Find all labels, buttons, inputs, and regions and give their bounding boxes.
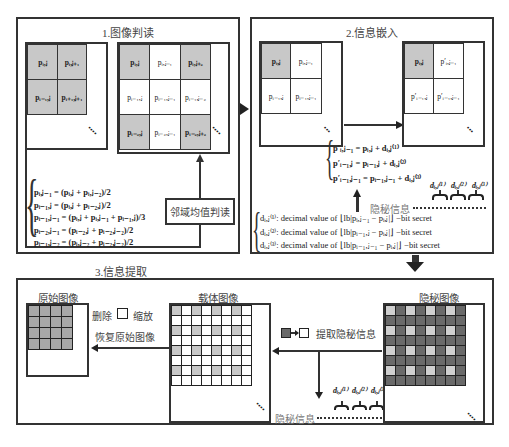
embed-equations: p′ᵢ,ⱼ₋₁ = pᵢ,ⱼ + dᵢ,ⱼ⁽¹⁾ p′ᵢ₋₁,ⱼ = pᵢ₋₁,… [333,141,421,186]
empty-square-icon [117,308,128,319]
empty-square-icon [299,328,309,338]
bracket-icon [450,194,466,200]
equation: pᵢ₋₁,ⱼ₋₁ = (pᵢ,ⱼ + pᵢ,ⱼ₋₁ + pᵢ₋₁,ⱼ)/3 [34,211,145,224]
equation: p′ᵢ₋₁,ⱼ₋₁ = pᵢ₋₁,ⱼ₋₁ + dᵢ,ⱼ⁽³⁾ [333,171,421,186]
secret-info-label: 隐秘信息 [275,411,315,426]
restore-original-label: 恢复原始图像 [95,329,155,344]
bracket-stem [457,190,459,194]
original-image-grid [26,303,89,377]
bracket-stem [376,401,378,405]
d-definitions: dᵢ,ⱼ⁽¹⁾: decimal value of ⌊lb|pᵢ,ⱼ₋₁ − p… [260,212,440,253]
zoom-label: 缩放 [133,308,153,323]
bracket-stem [359,401,361,405]
panel-3-title: 3.信息提取 [95,263,175,279]
pixel-cell: pᵢ₋₂,ⱼ₊₂ [180,114,211,150]
d-label: dᵢ,ⱼ⁽³⁾ [472,181,487,190]
pixel-cell: pᵢ₋₁,ⱼ₋₂ [180,79,211,115]
secret-info-dots [413,207,486,209]
equation: pᵢ,ⱼ₋₁ = (pᵢ,ⱼ + pᵢ,ⱼ₋₂)/2 [34,186,145,199]
equation: pᵢ₋₁,ⱼ = (pᵢ,ⱼ + pᵢ₋₂,ⱼ)/2 [34,199,145,212]
bracket-stem [341,401,343,405]
pixel-cell: pᵢ,ⱼ [261,43,291,79]
pixel-cell: pᵢ,ⱼ₋₁ [149,44,181,80]
panel-2-title: 2.信息嵌入 [250,24,494,40]
equation: pᵢ₋₂,ⱼ₋₁ = (pᵢ₋₂,ⱼ + pᵢ₋₂,ⱼ₋₂)/2 [34,224,145,237]
equation: p′ᵢ,ⱼ₋₁ = pᵢ,ⱼ + dᵢ,ⱼ⁽¹⁾ [333,141,421,156]
pixel-cell: pᵢ₋₂,ⱼ [119,114,150,150]
pixel-cell: p′ᵢ,ⱼ₋₁ [433,43,464,79]
arrow-up-icon [353,189,361,197]
connector-line [199,162,201,198]
arrow-line [97,347,169,349]
ellipsis-icon: ···· [84,122,100,138]
equation: p′ᵢ₋₁,ⱼ = pᵢ₋₁,ⱼ + dᵢ,ⱼ⁽²⁾ [333,156,421,171]
dark-square-icon [281,328,291,338]
small-pixel-grid: pᵢ,ⱼ pᵢ,ⱼ₊₁ pᵢ₋₁,ⱼ pᵢ₊₁,ⱼ₊₁ ···· [25,42,108,150]
bracket-stem [439,190,441,194]
pixel-cell: pᵢ,ⱼ₊₁ [57,44,87,80]
pixel-cell [61,338,73,350]
arrow-up-icon [196,154,204,162]
pixel-cell: pᵢ₋₁,ⱼ₋₁ [290,78,322,114]
arrow-line [356,196,359,212]
arrow-right-icon [240,103,249,115]
mean-equations: pᵢ,ⱼ₋₁ = (pᵢ,ⱼ + pᵢ,ⱼ₋₂)/2 pᵢ₋₁,ⱼ = (pᵢ,… [34,186,145,249]
pixel-cell: pᵢ₋₁,ⱼ [27,79,58,115]
d-label: dᵢ,ⱼ⁽¹⁾ [430,181,445,190]
pixel-cell: pᵢ,ⱼ₊₂ [180,44,211,80]
arrow-line [318,351,320,393]
panel-1-title: 1.图像判读 [16,24,240,40]
definition: dᵢ,ⱼ⁽¹⁾: decimal value of ⌊lb|pᵢ,ⱼ₋₁ − p… [260,212,440,226]
bracket-icon [352,405,367,410]
pixel-cell: pᵢ₋₂,ⱼ₋₁ [149,114,181,150]
stego-image-grid [383,303,485,423]
arrow-left-icon [91,344,98,352]
pixel-cell: pᵢ₋₁,ⱼ [119,79,150,115]
pixel-cell: pᵢ₋₁,ⱼ₋₁ [149,79,181,115]
delete-label: 删除 [92,308,112,323]
pixel-cell: pᵢ,ⱼ₋₁ [290,43,322,79]
d-label: dᵢ,ⱼ⁽²⁾ [451,181,466,190]
pixel-cell: pᵢ₊₁,ⱼ₊₁ [57,79,87,115]
bracket-icon [369,405,384,410]
d-label: dᵢ,ⱼ⁽¹⁾ [333,386,348,395]
bracket-icon [468,194,484,200]
definition: dᵢ,ⱼ⁽²⁾: decimal value of ⌊lb|pᵢ₋₁,ⱼ − p… [260,226,440,240]
neighborhood-mean-label: 邻域均值判读 [170,204,230,219]
extract-secret-label: 提取隐秘信息 [316,326,376,341]
bracket-icon [334,405,349,410]
neighborhood-mean-box: 邻域均值判读 [165,198,235,225]
definition: dᵢ,ⱼ⁽³⁾: decimal value of ⌊lb|pᵢ₋₁,ⱼ₋₁ −… [260,239,440,253]
bracket-icon [432,194,448,200]
pixel-cell: pᵢ₋₁,ⱼ [261,78,291,114]
large-pixel-grid: pᵢ,ⱼ pᵢ,ⱼ₋₁ pᵢ,ⱼ₊₂ pᵢ₋₁,ⱼ pᵢ₋₁,ⱼ₋₁ pᵢ₋₁,… [117,42,230,154]
pixel-cell: pᵢ,ⱼ [27,44,58,80]
arrow-down-icon [406,262,424,272]
arrow-left-icon [272,347,279,355]
equation: pᵢ₋₁,ⱼ₋₂ = (pᵢ,ⱼ₋₂ + pᵢ₋₂,ⱼ₋₂)/2 [34,236,145,249]
d-label: dᵢ,ⱼ⁽²⁾ [352,386,367,395]
arrow-down-icon [315,392,323,399]
pixel-cell: p′ᵢ₋₁,ⱼ [404,78,434,114]
arrow-line [278,350,382,352]
connector-line [199,225,201,248]
arrow-line [344,124,398,126]
pixel-cell [455,375,466,386]
bracket-stem [475,190,477,194]
pixel-cell [241,375,252,386]
pixel-cell: p′ᵢ₋₁,ⱼ₋₁ [433,78,464,114]
secret-info-dots [317,417,382,419]
after-embed-grid: pᵢ,ⱼ p′ᵢ,ⱼ₋₁ p′ᵢ₋₁,ⱼ p′ᵢ₋₁,ⱼ₋₁ ··· [402,41,485,147]
ellipsis-icon: ··· [463,122,477,136]
pixel-cell: pᵢ,ⱼ [404,43,434,79]
pixel-cell: pᵢ,ⱼ [119,44,150,80]
